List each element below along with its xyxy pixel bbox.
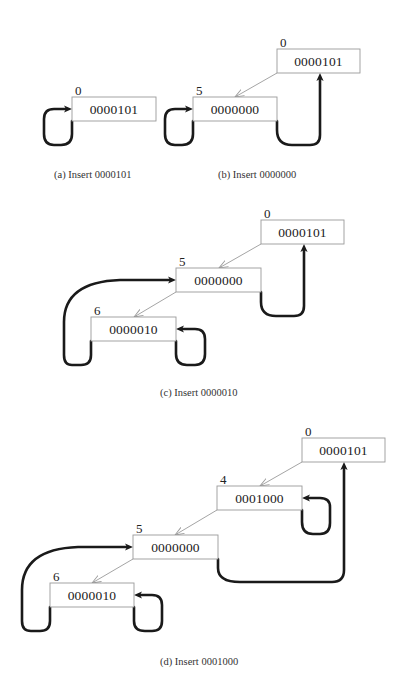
trie-node-d-5: 00000005 [133,521,218,559]
node-bit-index: 4 [220,472,227,487]
node-key: 0000010 [68,588,117,603]
nodes-layer: 0000101000001010000000050000101000000005… [50,35,385,607]
node-key: 0000101 [319,443,368,458]
back-pointer-edge-b-0 [165,109,193,145]
trie-node-b-5: 00000005 [193,83,277,121]
patricia-trie-insertion-figure: 0000101000001010000000050000101000000005… [0,0,407,694]
trie-node-d-0: 00001010 [302,424,385,462]
back-pointer-edge-a-0 [44,109,72,145]
trie-node-c-6: 00000106 [91,303,176,341]
back-pointer-edge-b-1 [277,80,320,145]
node-bit-index: 5 [196,83,203,98]
child-pointer-edge-d-0 [260,462,302,486]
node-bit-index: 5 [179,254,186,269]
caption-c: (c) Insert 0000010 [160,387,238,399]
node-key: 0000101 [278,225,327,240]
node-bit-index: 0 [305,424,312,439]
trie-node-c-5: 00000005 [176,254,261,292]
child-pointer-edge-d-2 [92,559,133,583]
child-pointer-edge-d-1 [175,510,217,535]
node-key: 0000000 [211,102,260,117]
child-pointer-edge-b-0 [235,73,277,97]
back-pointer-edge-d-2 [134,595,162,631]
trie-node-d-6: 00000106 [50,569,134,607]
trie-node-b-0: 00001010 [277,35,360,73]
back-pointer-edge-d-0 [302,498,330,534]
trie-node-d-4: 00010004 [217,472,302,510]
caption-a: (a) Insert 0000101 [54,169,132,181]
node-key: 0000010 [109,322,158,337]
back-pointer-edge-c-1 [176,329,205,365]
back-pointer-edge-c-0 [261,251,304,316]
node-bit-index: 6 [94,303,101,318]
node-key: 0000101 [294,54,343,69]
node-bit-index: 6 [53,569,60,584]
node-key: 0000101 [90,102,139,117]
child-pointer-edge-c-1 [134,292,176,317]
node-bit-index: 5 [136,521,143,536]
node-key: 0000000 [151,540,200,555]
caption-d: (d) Insert 0001000 [160,656,238,668]
node-key: 0000000 [194,273,243,288]
node-bit-index: 0 [264,206,271,221]
trie-node-a-0: 00001010 [72,83,156,121]
node-key: 0001000 [235,491,284,506]
caption-b: (b) Insert 0000000 [218,169,296,181]
node-bit-index: 0 [75,83,82,98]
node-bit-index: 0 [280,35,287,50]
trie-node-c-0: 00001010 [261,206,344,244]
child-pointer-edge-c-0 [219,244,261,268]
